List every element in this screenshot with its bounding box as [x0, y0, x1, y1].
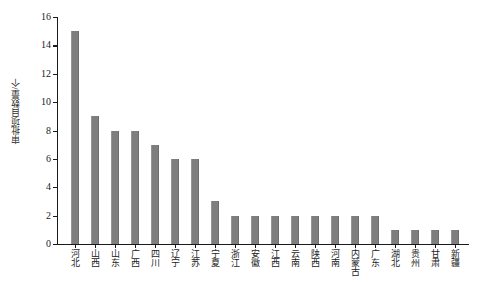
plot-area: 0246810121416 [57, 17, 469, 244]
y-tick-label: 4 [46, 182, 51, 192]
x-tick-label: 四川 [150, 249, 161, 267]
x-tick-label: 山西 [90, 249, 101, 267]
x-tick-mark [355, 244, 356, 248]
x-tick-label: 江西 [270, 249, 281, 267]
x-tick-label: 河北 [70, 249, 81, 267]
bar [151, 145, 159, 244]
bar [71, 31, 79, 244]
x-tick-label: 云南 [290, 249, 301, 267]
bar [391, 230, 399, 244]
bar [131, 131, 139, 245]
x-tick-mark [215, 244, 216, 248]
y-tick-mark [53, 244, 57, 245]
bar [311, 216, 319, 244]
y-tick-label: 12 [41, 69, 51, 79]
bar [371, 216, 379, 244]
bar [431, 230, 439, 244]
y-tick-label: 6 [46, 154, 51, 164]
x-tick-mark [395, 244, 396, 248]
bar [231, 216, 239, 244]
bar [211, 201, 219, 244]
bar [451, 230, 459, 244]
y-tick-label: 16 [41, 12, 51, 22]
x-tick-label: 广西 [130, 249, 141, 267]
x-tick-mark [375, 244, 376, 248]
bar [411, 230, 419, 244]
x-tick-mark [135, 244, 136, 248]
bar [171, 159, 179, 244]
bar [271, 216, 279, 244]
bar [351, 216, 359, 244]
x-tick-label: 广东 [370, 249, 381, 267]
bar [91, 116, 99, 244]
bar-chart: 审批项目数量/个 0246810121416 河北山西山东广西四川辽宁江苏宁夏浙… [0, 0, 479, 301]
x-tick-mark [155, 244, 156, 248]
bar [331, 216, 339, 244]
y-axis-title: 审批项目数量/个 [10, 78, 24, 144]
x-tick-mark [415, 244, 416, 248]
x-tick-mark [235, 244, 236, 248]
x-tick-mark [295, 244, 296, 248]
x-tick-label: 甘肃 [430, 249, 441, 267]
x-tick-label: 安徽 [250, 249, 261, 267]
x-tick-mark [275, 244, 276, 248]
y-tick-label: 10 [41, 97, 51, 107]
x-tick-label: 河南 [330, 249, 341, 267]
x-tick-label: 新疆 [450, 249, 461, 267]
x-tick-label: 内蒙古 [350, 249, 361, 276]
x-tick-mark [255, 244, 256, 248]
bars-layer [57, 17, 469, 244]
x-tick-label: 湖北 [390, 249, 401, 267]
x-tick-label: 江苏 [190, 249, 201, 267]
y-tick-label: 14 [41, 40, 51, 50]
x-tick-label: 贵州 [410, 249, 421, 267]
x-tick-mark [335, 244, 336, 248]
x-tick-mark [435, 244, 436, 248]
x-tick-mark [95, 244, 96, 248]
y-tick-label: 0 [46, 239, 51, 249]
x-axis-line [57, 244, 469, 245]
x-axis-labels: 河北山西山东广西四川辽宁江苏宁夏浙江安徽江西云南陕西河南内蒙古广东湖北贵州甘肃新… [57, 249, 469, 301]
x-tick-label: 辽宁 [170, 249, 181, 267]
x-tick-mark [115, 244, 116, 248]
x-tick-mark [315, 244, 316, 248]
x-tick-mark [175, 244, 176, 248]
x-tick-label: 宁夏 [210, 249, 221, 267]
bar [291, 216, 299, 244]
y-tick-label: 8 [46, 126, 51, 136]
x-tick-mark [195, 244, 196, 248]
x-tick-label: 陕西 [310, 249, 321, 267]
x-tick-label: 山东 [110, 249, 121, 267]
x-tick-mark [75, 244, 76, 248]
bar [111, 131, 119, 245]
bar [251, 216, 259, 244]
y-tick-label: 2 [46, 211, 51, 221]
bar [191, 159, 199, 244]
x-tick-label: 浙江 [230, 249, 241, 267]
x-tick-mark [455, 244, 456, 248]
